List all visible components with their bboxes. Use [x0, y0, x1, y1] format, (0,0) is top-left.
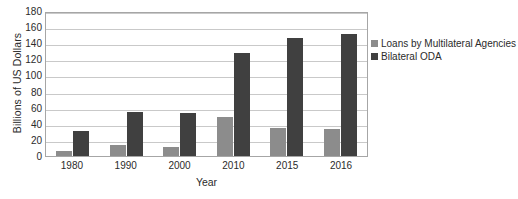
- plot-area: [45, 12, 368, 157]
- x-axis-title: Year: [45, 176, 368, 188]
- bar[interactable]: [270, 128, 286, 156]
- x-tick-label: 2016: [314, 160, 368, 171]
- bar[interactable]: [110, 145, 126, 156]
- bar-group: [207, 13, 261, 156]
- y-tick-label: 140: [16, 39, 42, 49]
- bar[interactable]: [163, 147, 179, 156]
- bar[interactable]: [56, 151, 72, 156]
- bar[interactable]: [127, 112, 143, 156]
- legend-swatch-icon: [371, 40, 378, 47]
- bar-group: [100, 13, 154, 156]
- bar[interactable]: [341, 34, 357, 156]
- bar[interactable]: [287, 38, 303, 156]
- bar[interactable]: [73, 131, 89, 156]
- y-tick-label: 100: [16, 71, 42, 81]
- x-tick-label: 2000: [153, 160, 207, 171]
- bars-layer: [46, 13, 367, 156]
- y-tick-label: 40: [16, 120, 42, 130]
- legend-swatch-icon: [371, 53, 378, 60]
- bar-group: [260, 13, 314, 156]
- x-tick-label: 2015: [260, 160, 314, 171]
- legend-label: Loans by Multilateral Agencies: [381, 38, 516, 49]
- x-tick-label: 2010: [206, 160, 260, 171]
- bar[interactable]: [234, 53, 250, 156]
- bar-group: [153, 13, 207, 156]
- legend-label: Bilateral ODA: [381, 51, 442, 62]
- x-tick-label: 1990: [99, 160, 153, 171]
- y-tick-label: 20: [16, 136, 42, 146]
- y-tick-label: 60: [16, 104, 42, 114]
- bar[interactable]: [324, 129, 340, 156]
- bar-chart-figure: Billions of US Dollars 18016014012010080…: [0, 0, 518, 199]
- x-axis-tick-labels: 198019902000201020152016: [45, 160, 368, 171]
- x-tick-label: 1980: [45, 160, 99, 171]
- y-tick-label: 180: [16, 7, 42, 17]
- y-tick-label: 0: [16, 152, 42, 162]
- bar-group: [46, 13, 100, 156]
- y-tick-label: 120: [16, 55, 42, 65]
- chart-legend: Loans by Multilateral AgenciesBilateral …: [371, 37, 516, 63]
- bar-group: [314, 13, 368, 156]
- bar[interactable]: [180, 113, 196, 156]
- y-axis-tick-labels: 180160140120100806040200: [16, 12, 42, 157]
- legend-entry[interactable]: Loans by Multilateral Agencies: [371, 37, 516, 50]
- y-tick-label: 80: [16, 88, 42, 98]
- bar[interactable]: [217, 117, 233, 156]
- y-tick-label: 160: [16, 23, 42, 33]
- legend-entry[interactable]: Bilateral ODA: [371, 50, 516, 63]
